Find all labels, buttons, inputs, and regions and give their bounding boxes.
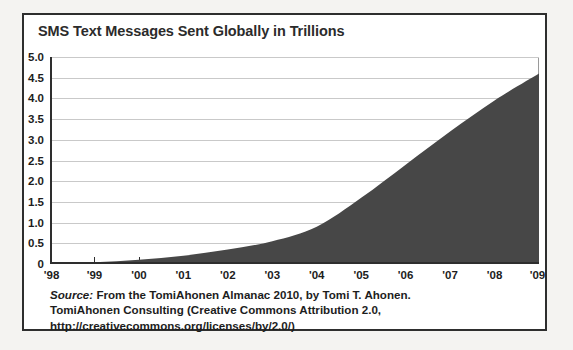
x-axis-line (50, 262, 539, 264)
x-axis-tick-label: '07 (442, 269, 458, 281)
y-axis-tick-label: 5.0 (28, 51, 44, 63)
plot-area: 5.04.54.03.53.02.52.01.51.00.50 '98'99'0… (50, 57, 539, 264)
source-caption: Source: From the TomiAhonen Almanac 2010… (50, 287, 533, 333)
x-axis-tick-label: '03 (265, 269, 281, 281)
y-axis-tick-label: 1.0 (28, 217, 44, 229)
y-axis-tick-label: 3.0 (28, 134, 44, 146)
source-line-1: From the TomiAhonen Almanac 2010, by Tom… (93, 288, 411, 301)
x-axis-tick-label: '06 (398, 269, 414, 281)
source-label: Source: (50, 288, 93, 301)
x-axis-tick-label: '04 (309, 269, 325, 281)
x-axis-tick-label: '99 (87, 269, 103, 281)
chart-figure: SMS Text Messages Sent Globally in Trill… (22, 13, 547, 331)
x-axis-tick-label: '08 (487, 269, 503, 281)
x-axis-tick-label: '98 (44, 269, 60, 281)
y-axis-tick-label: 1.5 (28, 196, 44, 208)
y-axis-tick-label: 2.0 (28, 175, 44, 187)
area-series (50, 57, 539, 264)
y-axis-line (50, 57, 52, 264)
x-axis-tick-label: '02 (220, 269, 236, 281)
y-axis-tick-label: 2.5 (28, 155, 44, 167)
y-axis-tick-label: 0.5 (28, 237, 44, 249)
x-axis-tick-label: '09 (530, 269, 546, 281)
x-axis-tick-label: '00 (131, 269, 147, 281)
y-axis-tick-label: 4.0 (28, 92, 44, 104)
area-series-path (50, 74, 539, 264)
source-line-3: http://creativecommons.org/licenses/by/2… (50, 319, 295, 332)
x-axis-tick-label: '01 (176, 269, 192, 281)
source-line-2: TomiAhonen Consulting (Creative Commons … (50, 303, 381, 316)
page-title: SMS Text Messages Sent Globally in Trill… (38, 23, 344, 39)
x-axis-tick-label: '05 (353, 269, 369, 281)
y-axis-tick-label: 3.5 (28, 113, 44, 125)
y-axis-tick-label: 4.5 (28, 72, 44, 84)
